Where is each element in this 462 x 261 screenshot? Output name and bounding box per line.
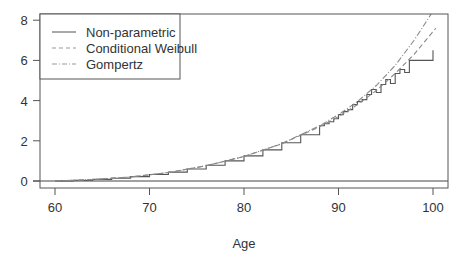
x-tick-label: 80 (237, 200, 251, 215)
y-tick-label: 2 (20, 134, 27, 149)
x-axis: 60708090100 (48, 188, 444, 215)
x-tick-label: 90 (331, 200, 345, 215)
y-axis: 02468 (20, 13, 40, 189)
chart-canvas: 02468 60708090100 Age Non-parametric Con… (0, 0, 462, 261)
x-tick-label: 60 (48, 200, 62, 215)
x-tick-label: 100 (422, 200, 444, 215)
y-tick-label: 4 (20, 94, 27, 109)
y-tick-label: 0 (20, 174, 27, 189)
legend: Non-parametric Conditional Weibull Gompe… (40, 14, 197, 79)
y-tick-label: 6 (20, 53, 27, 68)
legend-label-nonparametric: Non-parametric (86, 25, 176, 40)
x-tick-label: 70 (142, 200, 156, 215)
legend-label-gompertz: Gompertz (86, 57, 143, 72)
y-tick-label: 8 (20, 13, 27, 28)
legend-label-weibull: Conditional Weibull (86, 41, 197, 56)
x-axis-label: Age (232, 236, 255, 251)
